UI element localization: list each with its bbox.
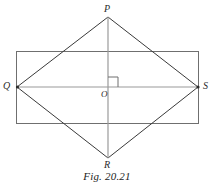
vertex-label-s: S xyxy=(203,81,208,91)
vertex-dot-s xyxy=(196,85,199,88)
figure-caption: Fig. 20.21 xyxy=(0,170,214,183)
vertex-dot-q xyxy=(16,85,19,88)
center-label-o: O xyxy=(101,89,108,99)
right-angle-marker-icon xyxy=(108,77,118,87)
figure-container: P Q S R O Fig. 20.21 xyxy=(0,0,214,188)
vertex-label-p: P xyxy=(104,4,110,14)
vertex-label-q: Q xyxy=(3,81,10,91)
vertex-label-r: R xyxy=(104,160,110,170)
